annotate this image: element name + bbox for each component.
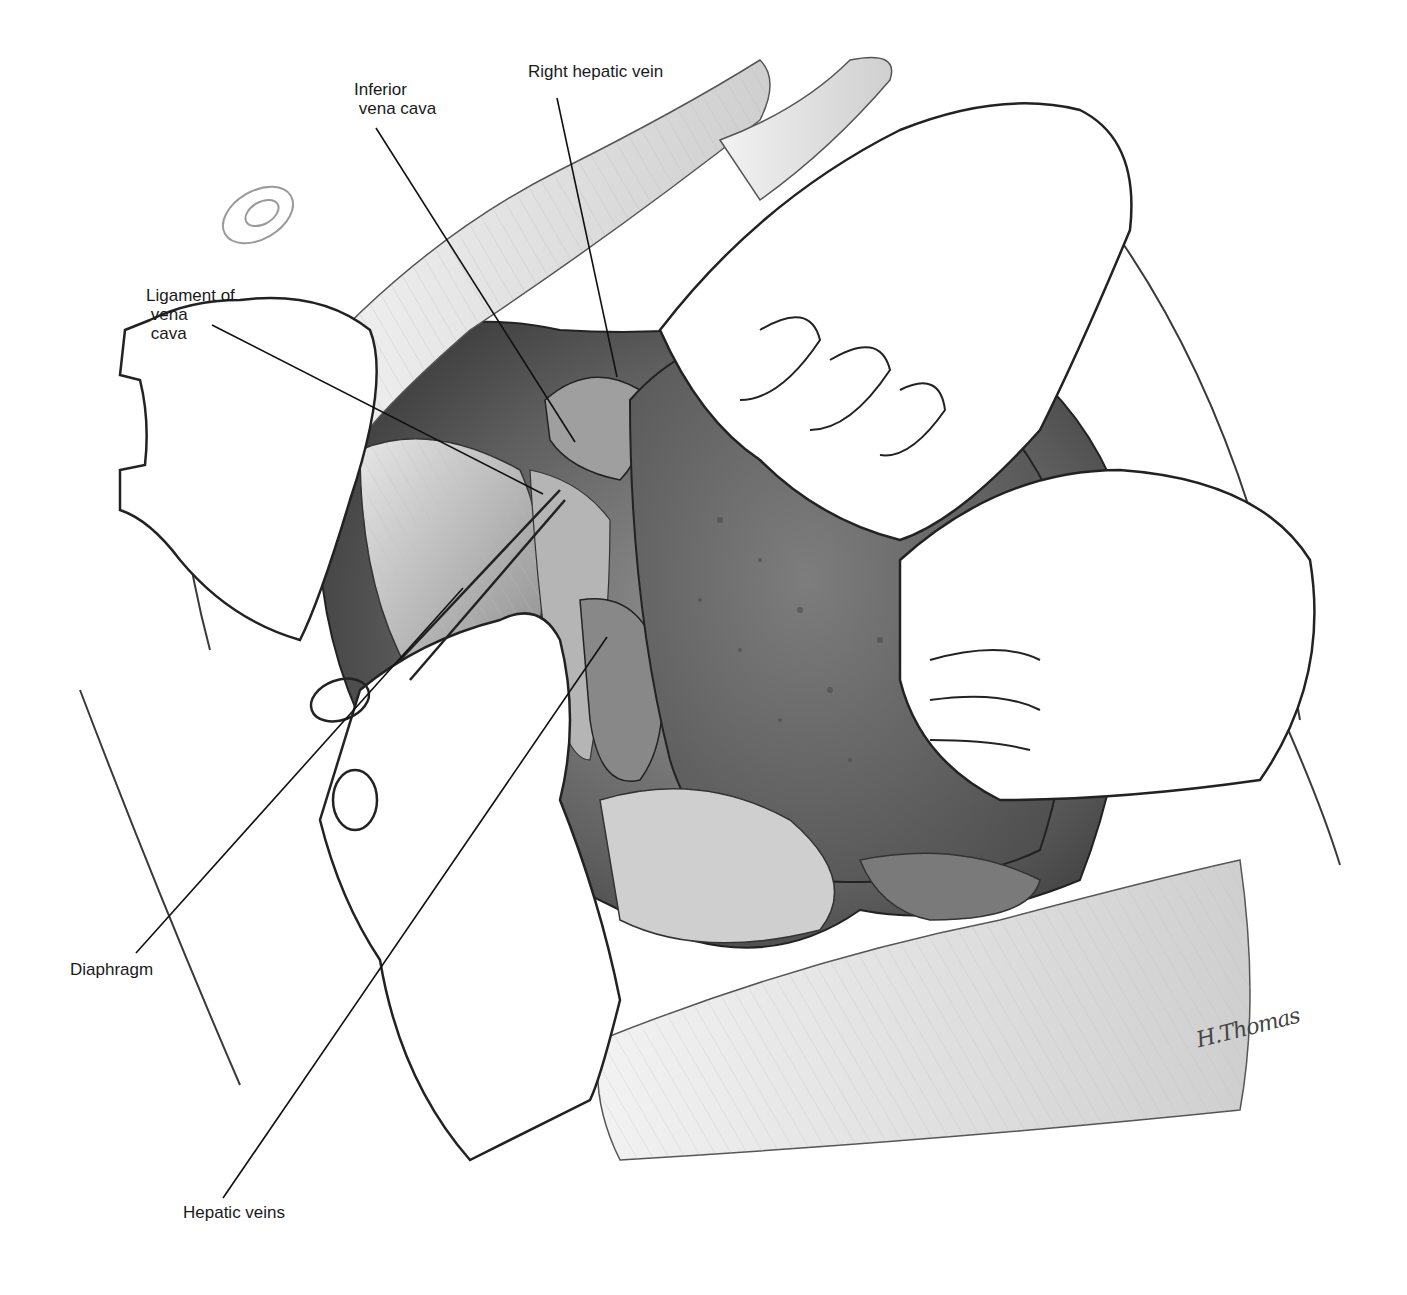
- label-diaphragm: Diaphragm: [70, 960, 153, 979]
- label-right-hepatic-vein: Right hepatic vein: [528, 62, 663, 81]
- label-inferior-vena-cava: Inferior vena cava: [354, 80, 436, 118]
- label-ligament-of-vena-cava: Ligament of vena cava: [146, 286, 235, 343]
- surgical-illustration: [0, 0, 1407, 1295]
- surgeon-hand-lower: [900, 470, 1314, 800]
- label-hepatic-veins: Hepatic veins: [183, 1203, 285, 1222]
- navel-icon: [213, 175, 303, 255]
